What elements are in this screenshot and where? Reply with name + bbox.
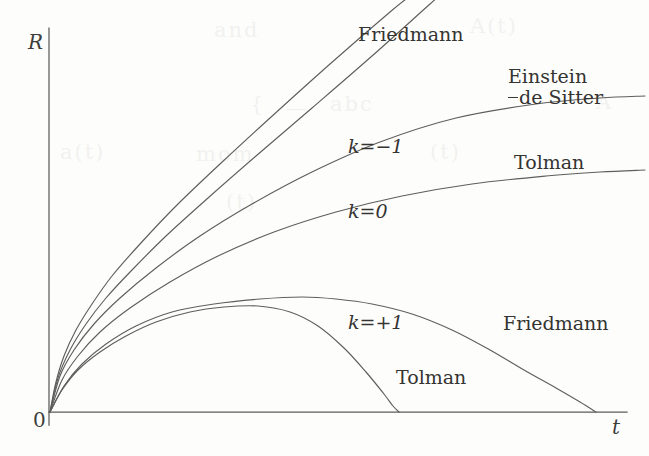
label-k-zero: k=0 xyxy=(348,200,388,222)
label-friedmann-open: Friedmann xyxy=(358,24,464,45)
label-tolman-closed: Tolman xyxy=(396,367,466,388)
origin-label: 0 xyxy=(33,408,46,432)
label-einstein-line1: Einstein xyxy=(508,65,587,87)
label-friedmann-closed: Friedmann xyxy=(503,313,609,334)
cosmology-figure: andA(t){—abcAa(t)mom(t)(t) R t 0 Friedma… xyxy=(0,0,649,456)
label-tolman-flat: Tolman xyxy=(514,152,584,173)
leader-dash-icon xyxy=(508,97,518,98)
label-k-minus-one: k=−1 xyxy=(348,135,403,157)
x-axis-label: t xyxy=(612,415,620,439)
curve-tolman-k-1 xyxy=(50,306,399,412)
label-einstein-de-sitter: Einstein de Sitter xyxy=(508,66,603,107)
y-axis-label: R xyxy=(28,30,43,54)
label-einstein-line2: de Sitter xyxy=(519,86,603,108)
label-k-plus-one: k=+1 xyxy=(348,311,403,333)
